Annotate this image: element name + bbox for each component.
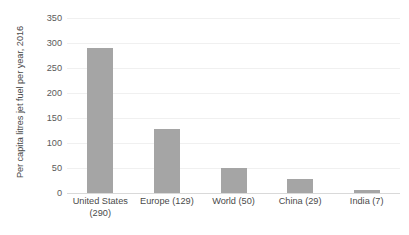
- bar: [154, 129, 180, 194]
- y-tick-label: 200: [32, 88, 62, 98]
- bar: [87, 48, 113, 193]
- y-tick-label: 50: [32, 163, 62, 173]
- y-tick-label: 150: [32, 113, 62, 123]
- x-tick-label-line: India (7): [335, 196, 398, 208]
- x-tick-label-line: Europe (129): [136, 196, 199, 208]
- x-tick-label-line: China (29): [269, 196, 332, 208]
- x-tick-label: Europe (129): [136, 196, 199, 208]
- y-tick-label: 250: [32, 63, 62, 73]
- x-tick-label-line: World (50): [202, 196, 265, 208]
- y-axis-title: Per capita litres jet fuel per year, 201…: [10, 2, 30, 202]
- x-tick-label-line: (290): [69, 208, 132, 220]
- y-tick-label: 350: [32, 13, 62, 23]
- y-tick-label: 0: [32, 188, 62, 198]
- y-tick-label: 100: [32, 138, 62, 148]
- x-tick-label: World (50): [202, 196, 265, 208]
- bar: [287, 179, 313, 194]
- bar-series: [67, 18, 400, 193]
- x-tick-label: India (7): [335, 196, 398, 208]
- bar: [221, 168, 247, 193]
- x-tick-label: China (29): [269, 196, 332, 208]
- bar-chart: Per capita litres jet fuel per year, 201…: [0, 0, 409, 235]
- bar: [354, 190, 380, 194]
- x-axis-tick-labels: United States(290)Europe (129)World (50)…: [67, 196, 400, 234]
- x-tick-label: United States(290): [69, 196, 132, 219]
- x-tick-label-line: United States: [69, 196, 132, 208]
- y-axis-tick-labels: 050100150200250300350: [30, 18, 62, 193]
- gridline-0: [67, 193, 400, 194]
- y-tick-label: 300: [32, 38, 62, 48]
